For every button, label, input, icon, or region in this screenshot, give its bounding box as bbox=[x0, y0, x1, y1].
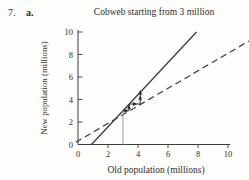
cobweb-figure: 7. a. Cobweb starting from 3 million New… bbox=[0, 0, 249, 180]
cobweb-arrow-up bbox=[138, 95, 142, 99]
y-tick-label: 0 bbox=[69, 140, 73, 150]
y-tick-label: 8 bbox=[69, 50, 73, 60]
y-tick-label: 2 bbox=[69, 117, 73, 127]
x-tick-label: 0 bbox=[76, 149, 80, 159]
x-tick-label: 2 bbox=[106, 149, 110, 159]
x-tick-label: 4 bbox=[136, 149, 141, 159]
y-tick-label: 4 bbox=[69, 95, 74, 105]
x-tick-label: 8 bbox=[196, 149, 200, 159]
equilibrium-diagonal-line bbox=[76, 41, 249, 142]
x-tick-label: 10 bbox=[224, 149, 233, 159]
y-tick-label: 10 bbox=[65, 27, 74, 37]
population-update-line bbox=[92, 32, 197, 145]
axes bbox=[78, 30, 230, 145]
cobweb-plot: 02468100246810 bbox=[0, 0, 249, 180]
x-tick-label: 6 bbox=[166, 149, 170, 159]
y-tick-label: 6 bbox=[69, 72, 73, 82]
cobweb-arrow-right bbox=[133, 102, 137, 106]
